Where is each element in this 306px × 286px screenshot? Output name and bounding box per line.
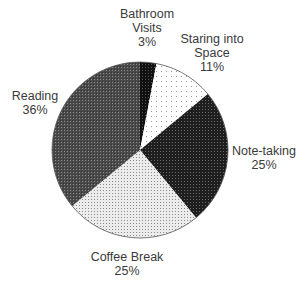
slice-label-staring-into-space: Staring intoSpace11% bbox=[180, 32, 243, 74]
pie-chart: BathroomVisits3%Staring intoSpace11%Note… bbox=[0, 0, 306, 286]
slice-label-bathroom-visits: BathroomVisits3% bbox=[120, 7, 174, 49]
slice-label-reading: Reading36% bbox=[12, 89, 59, 117]
slice-label-note-taking: Note-taking25% bbox=[232, 144, 296, 172]
slice-label-coffee-break: Coffee Break25% bbox=[91, 250, 164, 278]
pie-chart-canvas: BathroomVisits3%Staring intoSpace11%Note… bbox=[0, 0, 306, 286]
pie-slices bbox=[52, 62, 228, 238]
